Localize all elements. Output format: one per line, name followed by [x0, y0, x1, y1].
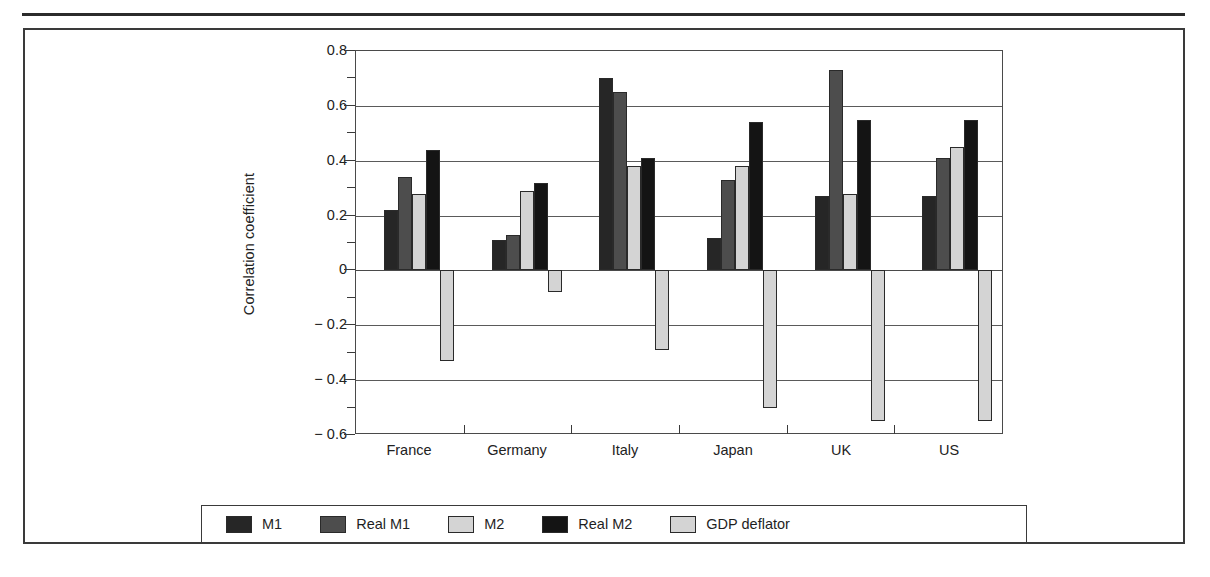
y-tick-minor	[347, 242, 355, 243]
bar-gdp-deflator-uk	[871, 270, 885, 421]
legend-item-real-m1[interactable]: Real M1	[320, 516, 410, 533]
legend-item-m2[interactable]: M2	[448, 516, 504, 533]
bar-real-m1-us	[936, 158, 950, 270]
y-axis-tick-labels: 0.80.60.40.20− 0.2− 0.4− 0.6	[301, 50, 347, 434]
y-tick-major	[344, 50, 355, 51]
y-tick-label: − 0.6	[314, 426, 347, 442]
bar-gdp-deflator-japan	[763, 270, 777, 407]
y-tick-minor	[347, 187, 355, 188]
y-tick-label: − 0.2	[314, 316, 347, 332]
y-tick-major	[344, 105, 355, 106]
legend-item-m1[interactable]: M1	[226, 516, 282, 533]
bar-group-italy	[571, 51, 679, 433]
chart-legend: M1Real M1M2Real M2GDP deflator	[201, 505, 1027, 543]
plot-area	[355, 50, 1003, 434]
x-tick-label-germany: Germany	[463, 442, 571, 458]
y-tick-major	[344, 160, 355, 161]
bar-m2-us	[950, 147, 964, 270]
bar-m1-uk	[815, 196, 829, 270]
figure-page: Correlation coefficient 0.80.60.40.20− 0…	[0, 0, 1210, 577]
x-tick-label-france: France	[355, 442, 463, 458]
legend-swatch-icon	[226, 516, 252, 533]
bar-m1-france	[384, 210, 398, 270]
bar-real-m1-france	[398, 177, 412, 270]
bar-gdp-deflator-france	[440, 270, 454, 361]
bar-m2-germany	[520, 191, 534, 271]
bar-real-m1-uk	[829, 70, 843, 270]
bar-group-us	[894, 51, 1002, 433]
bar-gdp-deflator-us	[978, 270, 992, 421]
legend-item-gdp-deflator[interactable]: GDP deflator	[670, 516, 790, 533]
legend-swatch-icon	[448, 516, 474, 533]
y-tick-label: − 0.4	[314, 371, 347, 387]
legend-swatch-icon	[670, 516, 696, 533]
bar-m2-france	[412, 194, 426, 271]
bar-real-m2-france	[426, 150, 440, 271]
y-tick-minor	[347, 297, 355, 298]
bar-real-m2-germany	[534, 183, 548, 271]
y-tick-minor	[347, 352, 355, 353]
figure-frame: Correlation coefficient 0.80.60.40.20− 0…	[23, 28, 1185, 544]
y-tick-major	[344, 269, 355, 270]
legend-label: Real M2	[578, 516, 632, 532]
bar-real-m2-italy	[641, 158, 655, 270]
x-axis-separator	[464, 425, 465, 434]
bar-gdp-deflator-germany	[548, 270, 562, 292]
bar-m1-germany	[492, 240, 506, 270]
bar-real-m1-japan	[721, 180, 735, 271]
legend-label: GDP deflator	[706, 516, 790, 532]
legend-swatch-icon	[542, 516, 568, 533]
bar-gdp-deflator-italy	[655, 270, 669, 350]
legend-label: M1	[262, 516, 282, 532]
x-tick-label-italy: Italy	[571, 442, 679, 458]
x-tick-label-japan: Japan	[679, 442, 787, 458]
plot-wrapper: Correlation coefficient 0.80.60.40.20− 0…	[243, 50, 1003, 482]
bar-real-m1-italy	[613, 92, 627, 270]
y-tick-major	[344, 434, 355, 435]
bar-m2-italy	[627, 166, 641, 270]
x-tick-label-us: US	[895, 442, 1003, 458]
bar-m2-uk	[843, 194, 857, 271]
bar-groups	[356, 51, 1002, 433]
top-rule	[22, 13, 1185, 16]
bar-group-france	[356, 51, 464, 433]
x-tick-label-uk: UK	[787, 442, 895, 458]
legend-label: M2	[484, 516, 504, 532]
bar-m1-us	[922, 196, 936, 270]
x-axis-separator	[571, 425, 572, 434]
legend-swatch-icon	[320, 516, 346, 533]
y-tick-major	[344, 324, 355, 325]
bar-m2-japan	[735, 166, 749, 270]
y-tick-minor	[347, 77, 355, 78]
bar-group-uk	[787, 51, 895, 433]
bar-group-japan	[679, 51, 787, 433]
y-tick-minor	[347, 132, 355, 133]
bar-real-m2-japan	[749, 122, 763, 270]
x-axis-separator	[787, 425, 788, 434]
y-tick-minor	[347, 407, 355, 408]
y-tick-major	[344, 215, 355, 216]
bar-m1-italy	[599, 78, 613, 270]
y-axis-label: Correlation coefficient	[241, 44, 257, 444]
bar-real-m2-uk	[857, 120, 871, 271]
bar-m1-japan	[707, 238, 721, 271]
bar-real-m1-germany	[506, 235, 520, 271]
legend-item-real-m2[interactable]: Real M2	[542, 516, 632, 533]
x-axis-separator	[679, 425, 680, 434]
bar-group-germany	[464, 51, 572, 433]
y-tick-major	[344, 379, 355, 380]
bar-real-m2-us	[964, 120, 978, 271]
legend-label: Real M1	[356, 516, 410, 532]
x-axis-separator	[894, 425, 895, 434]
